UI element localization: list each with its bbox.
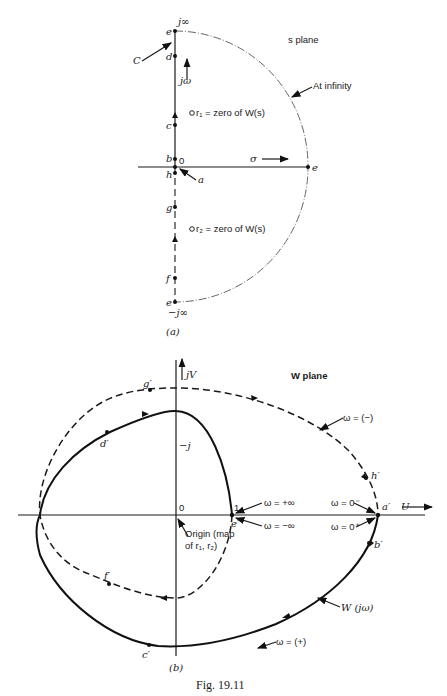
label-sigma: σ — [250, 153, 258, 164]
panel-a-s-plane: j∞ e C d jω c b 0 h a g f e −j∞ e σ r₁ =… — [133, 16, 352, 337]
w-negative-omega-curve — [40, 388, 378, 598]
label-b-prime: b′ — [374, 539, 383, 550]
zero-r1-marker — [190, 111, 195, 116]
arrow-icon — [251, 395, 258, 401]
zero-r2-marker — [190, 227, 195, 232]
label-u: U — [401, 501, 410, 512]
label-w-j-omega: W (jω) — [341, 602, 374, 613]
point-b — [173, 157, 177, 161]
point-d — [173, 54, 177, 58]
point-h-prime — [364, 476, 368, 480]
label-omega-negative: ω = (−) — [343, 412, 373, 423]
label-contour-c: C — [133, 55, 141, 66]
point-g — [173, 205, 177, 209]
label-omega-zero-plus: ω = 0⁺ — [331, 521, 360, 532]
label-origin: 0 — [179, 155, 184, 166]
panel-b-w-plane: jV W plane g′ d′ −j ω = (−) h′ 0 1 e′ ω … — [18, 359, 432, 673]
point-b-prime — [367, 541, 371, 545]
label-g: g — [166, 202, 172, 213]
label-f: f — [165, 273, 172, 284]
label-h-prime: h′ — [371, 470, 380, 481]
point-d-prime — [105, 430, 109, 434]
panel-a-label: (a) — [166, 326, 180, 337]
label-origin-0: 0 — [179, 502, 184, 513]
point-h — [173, 171, 177, 175]
label-f-prime: f′ — [103, 570, 111, 581]
label-zero-r2: r₂ = zero of W(s) — [196, 223, 265, 234]
w-minus-inf-pointer — [236, 518, 262, 526]
point-e-top — [173, 29, 177, 33]
label-omega-positive: ω = (+) — [276, 636, 306, 647]
label-c-prime: c′ — [142, 649, 151, 660]
label-h: h — [166, 169, 172, 180]
point-c — [173, 123, 177, 127]
arrow-icon — [282, 613, 291, 618]
label-s-plane: s plane — [288, 34, 319, 45]
w-negative-pointer — [320, 418, 343, 430]
point-a-pointer — [180, 169, 196, 180]
point-origin — [173, 165, 177, 169]
label-omega-minus-inf: ω = −∞ — [264, 520, 295, 531]
label-d: d — [166, 51, 172, 62]
label-omega-plus-inf: ω = +∞ — [264, 497, 295, 508]
label-a-prime: a′ — [382, 501, 391, 512]
label-c: c — [166, 120, 172, 131]
w-plus-inf-pointer — [236, 503, 262, 513]
point-f — [173, 276, 177, 280]
point-c-prime — [147, 643, 151, 647]
point-a-prime — [376, 513, 380, 517]
label-a: a — [198, 174, 204, 185]
label-zero-r1: r₁ = zero of W(s) — [196, 107, 265, 118]
label-d-prime: d′ — [100, 438, 109, 449]
label-jv: jV — [184, 369, 198, 380]
label-j-omega: jω — [178, 75, 191, 86]
label-e-top: e — [166, 26, 172, 37]
at-infinity-pointer — [292, 87, 312, 97]
w-positive-pointer — [258, 642, 276, 648]
label-origin-note-2: of r₁, r₂) — [185, 540, 217, 551]
figure-19-11: j∞ e C d jω c b 0 h a g f e −j∞ e σ r₁ =… — [0, 0, 447, 696]
label-minus-j: −j — [179, 440, 190, 451]
label-at-infinity: At infinity — [313, 80, 352, 91]
label-g-prime: g′ — [143, 378, 152, 389]
point-e-bottom — [173, 300, 177, 304]
panel-b-label: (b) — [169, 662, 183, 673]
label-minus-j-infinity: −j∞ — [168, 307, 188, 318]
figure-caption: Fig. 19.11 — [196, 678, 245, 692]
label-e-right: e — [312, 162, 318, 173]
point-f-prime — [107, 582, 111, 586]
label-j-infinity: j∞ — [176, 16, 189, 27]
label-w-plane: W plane — [291, 370, 327, 381]
arrow-up-icon — [172, 236, 178, 242]
label-b: b — [166, 153, 172, 164]
arrow-up-icon — [172, 112, 178, 118]
label-origin-note-1: Origin (map — [185, 528, 235, 539]
curve-label-pointer — [318, 598, 340, 607]
point-e-prime — [230, 513, 234, 517]
label-one: 1 — [234, 502, 239, 513]
arrow-icon — [160, 595, 167, 601]
point-e-right — [306, 165, 310, 169]
label-omega-zero-minus: ω = 0⁻ — [331, 497, 360, 508]
